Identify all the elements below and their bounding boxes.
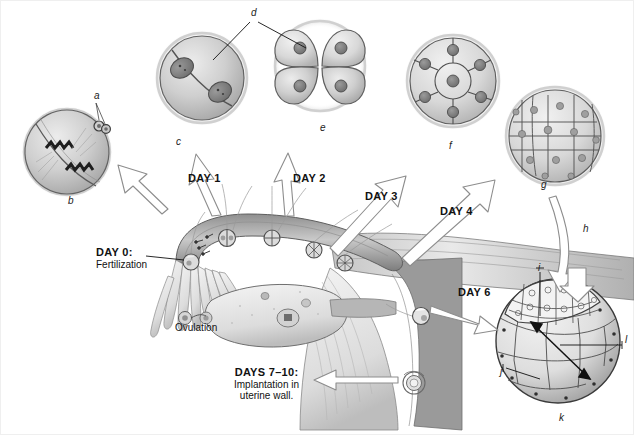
letter-d: d <box>251 7 257 18</box>
embryology-figure: DAY 0: Fertilization DAY 1 DAY 2 DAY 3 D… <box>0 0 634 435</box>
label-day0: DAY 0: Fertilization <box>96 246 147 270</box>
stage-e-four-cell <box>272 18 368 114</box>
letter-k: k <box>559 412 564 423</box>
label-day3: DAY 3 <box>365 190 398 202</box>
tube-embryo-day0 <box>183 254 199 270</box>
label-day2: DAY 2 <box>293 172 326 184</box>
label-day1: DAY 1 <box>188 172 221 184</box>
implantation-sub: Implantation inuterine wall. <box>234 379 299 402</box>
label-days-7-10: DAYS 7–10: Implantation inuterine wall. <box>234 367 299 402</box>
stage-g-morula <box>503 84 607 188</box>
arrow-to-e <box>274 153 300 216</box>
letter-b: b <box>68 195 74 206</box>
label-day4: DAY 4 <box>440 205 473 217</box>
tube-embryo-day1 <box>219 230 236 247</box>
tube-embryo-day2 <box>264 230 280 246</box>
illustration-layer <box>0 0 634 435</box>
arrow-to-b <box>118 165 168 214</box>
letter-c: c <box>176 136 181 147</box>
stage-f-eight-cell <box>404 32 502 130</box>
arrow-to-c <box>189 154 221 216</box>
label-ovulation: Ovulation <box>175 322 217 333</box>
label-day6: DAY 6 <box>458 286 491 298</box>
letter-e: e <box>320 122 326 133</box>
letter-h: h <box>583 223 589 234</box>
tube-embryo-day3 <box>306 242 322 258</box>
tube-embryo-day4 <box>337 255 353 271</box>
letter-f: f <box>449 140 452 151</box>
letter-j: j <box>500 366 502 377</box>
letter-l: l <box>625 334 627 345</box>
letter-i: i <box>538 262 540 273</box>
stage-c-two-cell <box>154 30 250 126</box>
implantation-site <box>403 371 425 394</box>
stage-b-zygote <box>21 103 113 198</box>
letter-a: a <box>94 90 100 101</box>
tube-embryo-day6-uterus <box>413 308 430 325</box>
letter-g: g <box>541 179 547 190</box>
